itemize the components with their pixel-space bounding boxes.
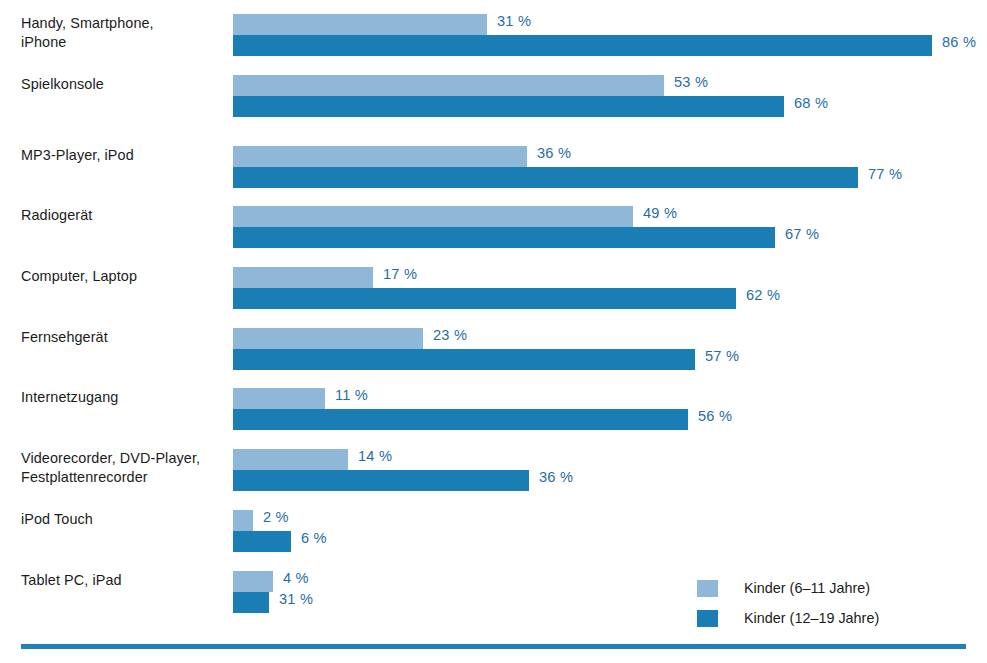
chart-row: Handy, Smartphone, iPhone31 %86 % xyxy=(0,14,987,70)
chart-row: Videorecorder, DVD-Player, Festplattenre… xyxy=(0,449,987,505)
bar-value-label: 62 % xyxy=(746,287,780,303)
bar-kinder-12-19 xyxy=(233,470,529,491)
bar-kinder-12-19 xyxy=(233,288,736,309)
bar-kinder-12-19 xyxy=(233,96,784,117)
category-label: Fernsehgerät xyxy=(21,328,226,347)
legend-swatch-dark xyxy=(697,610,718,627)
bar-value-label: 67 % xyxy=(785,226,819,242)
bar-kinder-12-19 xyxy=(233,35,932,56)
bar-value-label: 68 % xyxy=(794,95,828,111)
category-label: Tablet PC, iPad xyxy=(21,571,226,590)
bottom-rule-divider xyxy=(21,644,966,649)
category-label: iPod Touch xyxy=(21,510,226,529)
category-label: Videorecorder, DVD-Player, Festplattenre… xyxy=(21,449,226,487)
bar-kinder-6-11 xyxy=(233,146,527,167)
bar-value-label: 14 % xyxy=(358,448,392,464)
bar-kinder-12-19 xyxy=(233,167,858,188)
bar-value-label: 31 % xyxy=(497,13,531,29)
bar-kinder-6-11 xyxy=(233,510,253,531)
bar-kinder-12-19 xyxy=(233,592,269,613)
category-label: Handy, Smartphone, iPhone xyxy=(21,14,226,52)
bar-kinder-12-19 xyxy=(233,227,775,248)
bar-kinder-6-11 xyxy=(233,75,664,96)
category-label: Internetzugang xyxy=(21,388,226,407)
bar-kinder-12-19 xyxy=(233,531,291,552)
bar-value-label: 36 % xyxy=(537,145,571,161)
bar-value-label: 49 % xyxy=(643,205,677,221)
bar-value-label: 57 % xyxy=(705,348,739,364)
chart-row: Computer, Laptop17 %62 % xyxy=(0,267,987,323)
category-label: Computer, Laptop xyxy=(21,267,226,286)
bar-kinder-6-11 xyxy=(233,449,348,470)
chart-legend: Kinder (6–11 Jahre)Kinder (12–19 Jahre) xyxy=(697,578,977,640)
bar-kinder-6-11 xyxy=(233,328,423,349)
legend-swatch-light xyxy=(697,580,718,597)
category-label: Radiogerät xyxy=(21,206,226,225)
bar-kinder-12-19 xyxy=(233,409,688,430)
bar-value-label: 36 % xyxy=(539,469,573,485)
bar-chart: Handy, Smartphone, iPhone31 %86 %Spielko… xyxy=(0,0,987,663)
bar-value-label: 86 % xyxy=(942,34,976,50)
legend-item[interactable]: Kinder (12–19 Jahre) xyxy=(697,608,977,634)
bar-value-label: 23 % xyxy=(433,327,467,343)
bar-kinder-6-11 xyxy=(233,388,325,409)
category-label: Spielkonsole xyxy=(21,75,226,94)
bar-kinder-6-11 xyxy=(233,267,373,288)
bar-kinder-6-11 xyxy=(233,206,633,227)
bar-value-label: 4 % xyxy=(283,570,309,586)
chart-row: Radiogerät49 %67 % xyxy=(0,206,987,262)
bar-value-label: 6 % xyxy=(301,530,327,546)
bar-kinder-6-11 xyxy=(233,14,487,35)
chart-row: iPod Touch2 %6 % xyxy=(0,510,987,566)
bar-value-label: 77 % xyxy=(868,166,902,182)
bar-value-label: 17 % xyxy=(383,266,417,282)
chart-row: Fernsehgerät23 %57 % xyxy=(0,328,987,384)
bar-value-label: 2 % xyxy=(263,509,289,525)
chart-row: MP3-Player, iPod36 %77 % xyxy=(0,146,987,202)
bar-value-label: 53 % xyxy=(674,74,708,90)
bar-value-label: 11 % xyxy=(335,387,368,403)
legend-label: Kinder (6–11 Jahre) xyxy=(744,578,870,598)
bar-kinder-12-19 xyxy=(233,349,695,370)
bar-kinder-6-11 xyxy=(233,571,273,592)
legend-label: Kinder (12–19 Jahre) xyxy=(744,608,879,628)
category-label: MP3-Player, iPod xyxy=(21,146,226,165)
bar-value-label: 56 % xyxy=(698,408,732,424)
chart-row: Spielkonsole53 %68 % xyxy=(0,75,987,131)
bar-value-label: 31 % xyxy=(279,591,313,607)
legend-item[interactable]: Kinder (6–11 Jahre) xyxy=(697,578,977,604)
chart-row: Internetzugang11 %56 % xyxy=(0,388,987,444)
